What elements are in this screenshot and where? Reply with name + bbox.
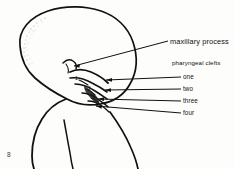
anatomical-line-drawing <box>0 0 235 169</box>
stomodeum-notch <box>66 64 68 73</box>
label-cleft-three: three <box>183 98 198 104</box>
embryo-figure: maxillary process pharyngeal clefts one … <box>0 0 235 169</box>
body-wall-right <box>110 112 138 169</box>
leader-line-maxillary-process <box>74 41 168 66</box>
label-cleft-four: four <box>183 110 194 116</box>
label-cleft-one: one <box>183 74 194 80</box>
label-pharyngeal-clefts-heading: pharyngeal clefts <box>172 60 220 66</box>
leader-line-cleft-two <box>105 89 181 90</box>
cardiac-prominence-curve <box>64 120 73 169</box>
arch-number-1: 1 <box>75 76 78 81</box>
leader-line-cleft-one <box>106 77 181 80</box>
figure-number: 8 <box>7 152 11 159</box>
label-maxillary-process: maxillary process <box>170 38 229 45</box>
arch-number-3: 3 <box>92 95 95 100</box>
label-cleft-two: two <box>183 86 193 92</box>
maxillary-process-outline <box>63 60 76 69</box>
arch-number-2: 2 <box>88 86 91 91</box>
arch-number-4: 4 <box>95 103 98 108</box>
trunk-outline <box>32 99 66 169</box>
